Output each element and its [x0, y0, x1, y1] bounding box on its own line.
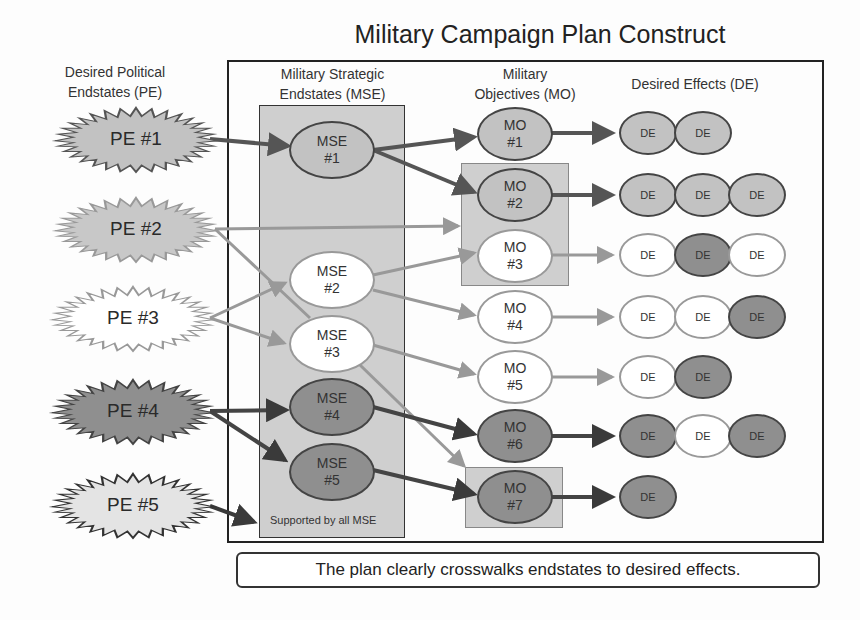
mse-2-number: #2 — [317, 280, 347, 297]
caption-box: The plan clearly crosswalks endstates to… — [236, 552, 820, 588]
mse-2-label: MSE — [317, 263, 347, 280]
de-4-2: DE — [674, 295, 732, 339]
mo-7: MO#7 — [477, 470, 553, 524]
mse-4: MSE#4 — [289, 378, 375, 436]
mse-2: MSE#2 — [289, 251, 375, 309]
mo-1-number: #1 — [504, 134, 527, 151]
pe-3: PE #3 — [83, 301, 183, 335]
mse-1-label: MSE — [317, 133, 347, 150]
de-2-3: DE — [728, 173, 786, 217]
de-3-3: DE — [728, 233, 786, 277]
mo-6: MO#6 — [477, 409, 553, 463]
de-4-3: DE — [728, 295, 786, 339]
mo-2-label: MO — [504, 178, 527, 195]
mse-3-label: MSE — [317, 327, 347, 344]
de-6-2: DE — [674, 414, 732, 458]
de-6-3: DE — [728, 414, 786, 458]
de-5-1: DE — [619, 355, 677, 399]
de-5-2: DE — [674, 355, 732, 399]
mse-4-number: #4 — [317, 407, 347, 424]
mse-1-number: #1 — [317, 150, 347, 167]
mo-2-number: #2 — [504, 195, 527, 212]
de-3-2: DE — [674, 233, 732, 277]
mo-4-number: #4 — [504, 317, 527, 334]
pe-1: PE #1 — [86, 122, 186, 156]
mo-5-label: MO — [504, 360, 527, 377]
mo-1: MO#1 — [477, 107, 553, 161]
mo-7-number: #7 — [504, 497, 527, 514]
mse-5: MSE#5 — [289, 443, 375, 501]
mo-5-number: #5 — [504, 377, 527, 394]
mse-1: MSE#1 — [289, 121, 375, 179]
mo-1-label: MO — [504, 117, 527, 134]
mo-4: MO#4 — [477, 290, 553, 344]
de-4-1: DE — [619, 295, 677, 339]
mse-3-number: #3 — [317, 344, 347, 361]
mse-4-label: MSE — [317, 390, 347, 407]
mo-3: MO#3 — [477, 229, 553, 283]
de-3-1: DE — [619, 233, 677, 277]
mo-7-label: MO — [504, 480, 527, 497]
mo-3-label: MO — [504, 239, 527, 256]
mo-5: MO#5 — [477, 350, 553, 404]
mo-6-number: #6 — [504, 436, 527, 453]
mse-5-number: #5 — [317, 472, 347, 489]
de-7-1: DE — [619, 475, 677, 519]
de-2-2: DE — [674, 173, 732, 217]
mo-3-number: #3 — [504, 256, 527, 273]
de-1-2: DE — [674, 111, 732, 155]
de-6-1: DE — [619, 414, 677, 458]
mse-5-label: MSE — [317, 455, 347, 472]
pe-5: PE #5 — [83, 488, 183, 522]
mo-4-label: MO — [504, 300, 527, 317]
pe-4: PE #4 — [83, 394, 183, 428]
mo-2: MO#2 — [477, 168, 553, 222]
mse-3: MSE#3 — [289, 315, 375, 373]
mo-6-label: MO — [504, 419, 527, 436]
de-2-1: DE — [619, 173, 677, 217]
pe-2: PE #2 — [86, 212, 186, 246]
de-1-1: DE — [619, 111, 677, 155]
